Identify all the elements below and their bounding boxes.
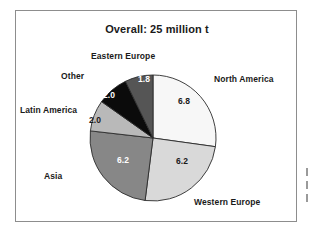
- pie-value-other: 2.0: [103, 90, 115, 100]
- pie-slice-asia: [90, 131, 153, 201]
- pie-value-north-america: 6.8: [178, 96, 190, 106]
- cropped-caption-mark: [306, 181, 308, 189]
- figure-root: Overall: 25 million t Eastern Europe Oth…: [0, 0, 321, 235]
- pie-value-asia: 6.2: [117, 155, 129, 165]
- pie-label-eastern-europe: Eastern Europe: [91, 51, 155, 61]
- figure-frame: Overall: 25 million t Eastern Europe Oth…: [15, 10, 297, 222]
- pie-label-latin-america: Latin America: [20, 105, 77, 115]
- pie-label-western-europe: Western Europe: [194, 197, 260, 207]
- pie-value-latin-america: 2.0: [89, 115, 101, 125]
- pie-value-eastern-europe: 1.8: [138, 74, 150, 84]
- pie-value-western-europe: 6.2: [176, 156, 188, 166]
- pie-label-other: Other: [61, 71, 84, 81]
- pie-label-asia: Asia: [44, 171, 62, 181]
- pie-slice-north-america: [153, 75, 216, 147]
- cropped-caption-mark: [306, 168, 308, 176]
- pie-slice-western-europe: [145, 138, 215, 201]
- cropped-caption-mark: [306, 194, 308, 202]
- pie-label-north-america: North America: [214, 74, 274, 84]
- pie-chart: [16, 11, 298, 223]
- cropped-caption-marks: [306, 168, 318, 208]
